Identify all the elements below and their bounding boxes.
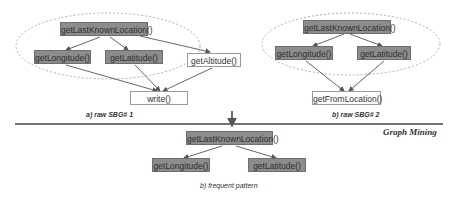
node-b-getfromlocation: getFromLocation(): [312, 91, 381, 105]
stage-label: Graph Mining: [383, 127, 437, 137]
node-a-write: write(): [130, 91, 188, 105]
caption-graph-b: b) raw SBG# 2: [332, 111, 379, 118]
node-a-getaltitude: getAltitude(): [187, 53, 241, 67]
node-p-getlastknownlocation: getLastKnownLocation(): [186, 131, 273, 145]
node-b-getlastknownlocation: getLastKnownLocation(): [303, 20, 391, 34]
node-p-getlatitude: getLatitude(): [248, 158, 306, 172]
caption-graph-a: a) raw SBG# 1: [86, 111, 133, 118]
graph-mining-diagram: getLastKnownLocation() getLongitude() ge…: [0, 0, 461, 200]
node-a-getlongitude: getLongitude(): [34, 50, 91, 64]
node-p-getlongitude: getLongitude(): [152, 158, 210, 172]
node-a-getlastknownlocation: getLastKnownLocation(): [60, 22, 148, 36]
node-b-getlongitude: getLongitude(): [275, 46, 333, 60]
node-b-getlatitude: getLatitude(): [357, 46, 411, 60]
node-a-getlatitude: getLatitude(): [105, 50, 163, 64]
caption-frequent-pattern: b) frequent pattern: [200, 182, 258, 189]
